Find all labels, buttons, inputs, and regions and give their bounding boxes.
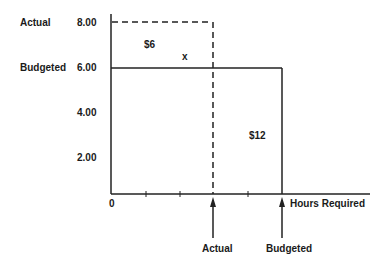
arrowhead-icon <box>210 197 216 207</box>
y-side-label-actual: Actual <box>20 17 51 29</box>
y-side-label-budgeted: Budgeted <box>20 62 66 74</box>
y-tick-2: 2.00 <box>77 152 96 164</box>
x-marker-budgeted: Budgeted <box>266 243 312 255</box>
arrowhead-icon <box>279 197 285 207</box>
quantity-variance-label: $12 <box>249 130 266 142</box>
x-origin-label: 0 <box>109 198 115 210</box>
x-axis-title: Hours Required <box>290 198 365 210</box>
y-tick-4: 4.00 <box>77 107 96 119</box>
variance-diagram <box>0 0 383 267</box>
x-marker-actual: Actual <box>202 243 233 255</box>
y-tick-6: 6.00 <box>77 62 96 74</box>
y-tick-8: 8.00 <box>77 17 96 29</box>
price-variance-label: $6 <box>144 39 155 51</box>
overlap-marker: x <box>182 51 188 63</box>
